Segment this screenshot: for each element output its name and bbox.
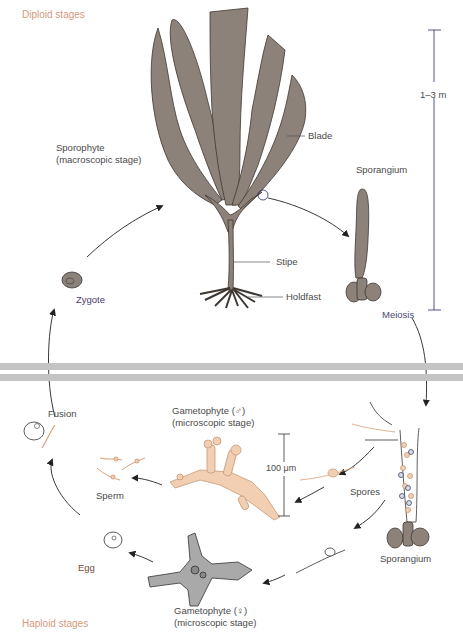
stipe-label: Stipe	[276, 256, 298, 268]
sporophyte-kelp	[151, 8, 306, 290]
magnify-circle	[258, 190, 268, 200]
scale-large-label: 1–3 m	[420, 89, 446, 101]
fusion-cell	[24, 422, 44, 440]
holdfast-roots	[200, 288, 262, 308]
female-gametophyte	[148, 533, 252, 606]
meiosis-label: Meiosis	[382, 309, 414, 321]
spores-label: Spores	[350, 486, 380, 498]
kelp-life-cycle-diagram: Diploid stages Haploid stages Sporophyte…	[0, 0, 463, 632]
fusion-label: Fusion	[48, 408, 77, 420]
sperm-cells	[97, 457, 145, 480]
divider-band-top	[0, 363, 463, 370]
male-gametophyte	[170, 437, 280, 520]
sperm-label: Sperm	[96, 490, 124, 502]
female-gametophyte-label: Gametophyte (♀)	[174, 605, 247, 617]
scale-bar-large	[428, 30, 441, 310]
blade-label: Blade	[308, 130, 332, 142]
egg-label: Egg	[78, 562, 95, 574]
haploid-stages-label: Haploid stages	[22, 618, 88, 630]
holdfast-label: Holdfast	[286, 291, 321, 303]
scale-small-label: 100 μm	[266, 462, 296, 474]
sporangium-top	[346, 189, 381, 302]
sporophyte-label: Sporophyte	[56, 142, 105, 154]
female-gametophyte-sublabel: (microscopic stage)	[174, 617, 256, 629]
sporangium-top-label: Sporangium	[356, 164, 407, 176]
scale-bar-small	[278, 434, 290, 516]
sporangium-bottom-label: Sporangium	[380, 553, 431, 565]
diploid-stages-label: Diploid stages	[22, 9, 85, 21]
zygote-cell	[62, 272, 82, 288]
zygote-label: Zygote	[76, 294, 105, 306]
sporophyte-sublabel: (macroscopic stage)	[56, 154, 142, 166]
divider-band-bottom	[0, 374, 463, 381]
male-gametophyte-sublabel: (microscopic stage)	[172, 417, 254, 429]
male-gametophyte-label: Gametophyte (♂)	[172, 405, 245, 417]
